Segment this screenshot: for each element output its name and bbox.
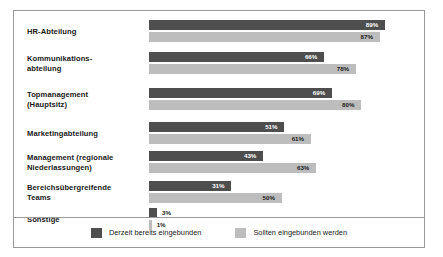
- bar-track: 87%: [149, 32, 414, 42]
- legend-label: Sollten eingebunden werden: [253, 228, 347, 237]
- legend-label: Derzeit bereits eingebunden: [109, 228, 201, 237]
- category-label: Marketingabteilung: [27, 121, 149, 147]
- category-label: Topmanagement(Hauptsitz): [27, 87, 149, 113]
- bar-track: 61%: [149, 134, 414, 144]
- bar-value-label: 63%: [297, 164, 309, 172]
- category-bars: 89%87%: [149, 19, 418, 45]
- legend-item[interactable]: Sollten eingebunden werden: [235, 228, 347, 238]
- chart-category-row: Management (regionaleNiederlassungen)43%…: [14, 150, 424, 176]
- bar-value-label: 61%: [292, 135, 304, 143]
- chart-category-row: HR-Abteilung89%87%: [14, 19, 424, 45]
- chart-frame: HR-Abteilung89%87%Kommunikations-abteilu…: [13, 10, 425, 248]
- bar-value-label: 87%: [361, 33, 373, 41]
- bar-track: 78%: [149, 64, 414, 74]
- chart-category-row: Topmanagement(Hauptsitz)69%80%: [14, 87, 424, 113]
- bar-value-label: 78%: [337, 65, 349, 73]
- bar-current: [149, 122, 284, 132]
- legend-swatch-dark: [91, 228, 102, 238]
- category-bars: 66%78%: [149, 51, 418, 77]
- category-bars: 69%80%: [149, 87, 418, 113]
- bar-value-label: 89%: [366, 21, 378, 29]
- bar-current: [149, 20, 385, 30]
- category-label: HR-Abteilung: [27, 19, 149, 45]
- bar-target: [149, 64, 356, 74]
- bar-value-label: 66%: [305, 53, 317, 61]
- bar-track: 66%: [149, 52, 414, 62]
- chart-category-row: BereichsübergreifendeTeams31%50%: [14, 180, 424, 206]
- bar-value-label: 31%: [212, 182, 224, 190]
- legend-item[interactable]: Derzeit bereits eingebunden: [91, 228, 201, 238]
- bar-track: 43%: [149, 151, 414, 161]
- bar-target: [149, 163, 316, 173]
- bar-track: 89%: [149, 20, 414, 30]
- bar-target: [149, 32, 380, 42]
- bar-target: [149, 100, 361, 110]
- bar-current: [149, 52, 324, 62]
- chart-plot-area: HR-Abteilung89%87%Kommunikations-abteilu…: [14, 11, 424, 217]
- bar-track: 80%: [149, 100, 414, 110]
- bar-value-label: 43%: [244, 152, 256, 160]
- bar-current: [149, 88, 332, 98]
- category-bars: 31%50%: [149, 180, 418, 206]
- chart-category-row: Marketingabteilung51%61%: [14, 121, 424, 147]
- bar-value-label: 80%: [342, 101, 354, 109]
- bar-track: 31%: [149, 181, 414, 191]
- bar-track: 69%: [149, 88, 414, 98]
- bar-track: 51%: [149, 122, 414, 132]
- bar-target: [149, 134, 311, 144]
- bar-track: 63%: [149, 163, 414, 173]
- bar-value-label: 69%: [313, 89, 325, 97]
- bar-track: 50%: [149, 193, 414, 203]
- bar-value-label: 51%: [265, 123, 277, 131]
- legend-swatch-light: [235, 228, 246, 238]
- bar-value-label: 3%: [162, 209, 171, 217]
- bar-value-label: 50%: [263, 194, 275, 202]
- category-label: Management (regionaleNiederlassungen): [27, 150, 149, 176]
- category-bars: 43%63%: [149, 150, 418, 176]
- chart-category-row: Kommunikations-abteilung66%78%: [14, 51, 424, 77]
- category-label: BereichsübergreifendeTeams: [27, 180, 149, 206]
- chart-legend: Derzeit bereits eingebundenSollten einge…: [14, 218, 424, 247]
- category-label: Kommunikations-abteilung: [27, 51, 149, 77]
- category-bars: 51%61%: [149, 121, 418, 147]
